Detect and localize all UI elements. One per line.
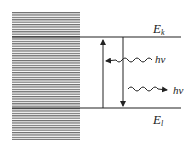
outgoing-photon-wave-icon bbox=[128, 87, 167, 91]
continuum-band bbox=[12, 12, 80, 140]
upper-level-label: Ek bbox=[153, 22, 165, 37]
outgoing-photon-label: hν bbox=[173, 85, 183, 96]
lower-level-label: El bbox=[153, 113, 163, 128]
incoming-photon-wave-icon bbox=[106, 58, 152, 62]
energy-level-diagram bbox=[0, 0, 195, 145]
incoming-photon-label: hν bbox=[155, 54, 165, 65]
